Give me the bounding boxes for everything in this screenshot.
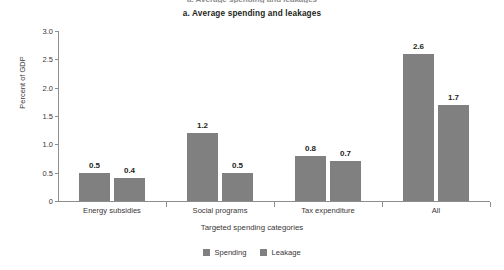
y-tick-label: 1.5 <box>13 112 53 121</box>
bar-leakage <box>222 173 253 201</box>
bar-leakage <box>438 105 469 201</box>
legend-swatch-icon <box>203 249 210 256</box>
y-tick-mark <box>55 144 59 145</box>
legend-item-leakage[interactable]: Leakage <box>260 248 300 257</box>
bar-leakage <box>114 178 145 201</box>
category-label-tax-expenditure: Tax expenditure <box>301 206 355 215</box>
bar-spending <box>79 173 110 201</box>
bar-value-label: 2.6 <box>413 42 424 51</box>
y-tick-label: 2.0 <box>13 83 53 92</box>
x-axis-tick <box>274 202 275 207</box>
legend-item-spending[interactable]: Spending <box>203 248 246 257</box>
x-axis-tick <box>166 202 167 207</box>
bar-value-label: 0.4 <box>124 166 135 175</box>
y-tick-mark <box>55 31 59 32</box>
chart-figure: a. Average spending and leakages a. Aver… <box>0 0 504 270</box>
bar-spending <box>295 156 326 201</box>
legend-label: Spending <box>214 248 246 257</box>
bar-value-label: 0.8 <box>305 144 316 153</box>
y-tick-mark <box>55 88 59 89</box>
category-label-social-programs: Social programs <box>193 206 248 215</box>
y-tick-label: 0.5 <box>13 168 53 177</box>
y-tick-label: 0 <box>13 197 53 206</box>
y-tick-mark <box>55 173 59 174</box>
category-label-all: All <box>432 206 440 215</box>
plot-area: 00.51.01.52.02.53.0 0.50.41.20.50.80.72.… <box>58 31 490 202</box>
bar-spending <box>403 54 434 201</box>
bar-value-label: 0.5 <box>232 161 243 170</box>
y-tick-label: 2.5 <box>13 55 53 64</box>
chart-legend: SpendingLeakage <box>0 248 504 257</box>
x-axis-title: Targeted spending categories <box>0 223 504 232</box>
category-label-energy-subsidies: Energy subsidies <box>83 206 141 215</box>
cropped-header-text: a. Average spending and leakages <box>0 0 504 3</box>
x-axis-tick <box>382 202 383 207</box>
bar-spending <box>187 133 218 201</box>
y-tick-mark <box>55 201 59 202</box>
bar-leakage <box>330 161 361 201</box>
bar-value-label: 0.7 <box>340 149 351 158</box>
y-tick-label: 1.0 <box>13 140 53 149</box>
y-tick-mark <box>55 59 59 60</box>
legend-swatch-icon <box>260 249 267 256</box>
bar-value-label: 1.2 <box>197 121 208 130</box>
legend-label: Leakage <box>271 248 300 257</box>
bar-value-label: 1.7 <box>448 93 459 102</box>
y-tick-mark <box>55 116 59 117</box>
bar-value-label: 0.5 <box>89 161 100 170</box>
chart-title: a. Average spending and leakages <box>0 9 504 18</box>
y-tick-label: 3.0 <box>13 27 53 36</box>
x-axis-tick <box>490 202 491 207</box>
